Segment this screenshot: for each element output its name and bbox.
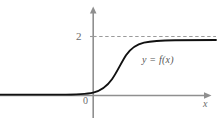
function-graph-figure: 2 0 x y = f(x) xyxy=(0,0,217,121)
function-curve xyxy=(0,40,216,95)
y-tick-label-2: 2 xyxy=(76,31,82,42)
plot-canvas xyxy=(0,0,217,121)
x-axis-label: x xyxy=(203,99,207,109)
origin-label: 0 xyxy=(83,96,88,106)
y-axis xyxy=(90,7,97,119)
function-curve-label: y = f(x) xyxy=(142,55,174,65)
y-axis-arrow-icon xyxy=(90,7,97,14)
